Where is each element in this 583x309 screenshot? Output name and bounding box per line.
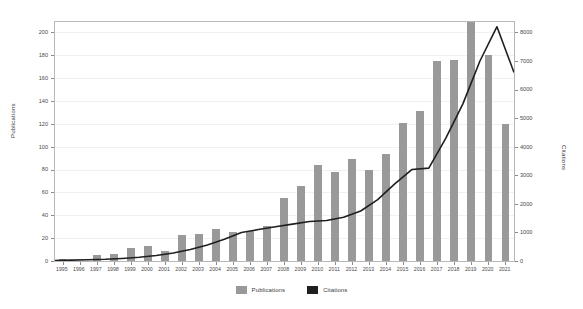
y-axis-left-tick-label: 140 — [22, 98, 48, 104]
y-axis-left-tick-label: 120 — [22, 121, 48, 127]
x-axis-tick-label: 1998 — [107, 266, 119, 272]
x-axis-tick-label: 2011 — [329, 266, 340, 272]
x-axis-tick — [386, 262, 387, 265]
x-axis-tick-label: 2008 — [278, 266, 290, 272]
y-axis-right-tick — [515, 175, 518, 176]
x-axis-tick-label: 2003 — [192, 266, 204, 272]
x-axis-tick-label: 1995 — [56, 266, 68, 272]
y-axis-left-tick-label: 40 — [22, 212, 48, 218]
citations-line — [54, 21, 514, 261]
y-axis-right-tick-label: 5000 — [520, 115, 550, 121]
y-axis-left-tick — [51, 78, 54, 79]
y-axis-left-tick-label: 200 — [22, 29, 48, 35]
y-axis-left-tick — [51, 147, 54, 148]
x-axis-tick-label: 2015 — [397, 266, 409, 272]
y-axis-right-tick-label: 0 — [520, 258, 550, 264]
y-axis-right-tick — [515, 90, 518, 91]
y-axis-left-tick — [51, 101, 54, 102]
x-axis-tick-label: 2002 — [175, 266, 187, 272]
x-axis-tick — [454, 262, 455, 265]
x-axis-tick-label: 2020 — [482, 266, 494, 272]
legend-label: Publications — [252, 287, 286, 293]
x-axis-tick-label: 2004 — [209, 266, 221, 272]
x-axis-tick-label: 2005 — [226, 266, 238, 272]
x-axis-tick-label: 2012 — [346, 266, 358, 272]
y-axis-left-title: Publications — [10, 103, 16, 138]
x-axis-tick-label: 2010 — [312, 266, 324, 272]
legend-swatch-icon — [307, 286, 318, 294]
y-axis-right-tick-label: 3000 — [520, 172, 550, 178]
y-axis-right-tick — [515, 261, 518, 262]
x-axis-tick-label: 2013 — [363, 266, 375, 272]
x-axis-tick-label: 1997 — [90, 266, 102, 272]
x-axis-tick — [284, 262, 285, 265]
y-axis-left-tick — [51, 170, 54, 171]
x-axis-tick-label: 2019 — [465, 266, 477, 272]
y-axis-right-tick-label: 8000 — [520, 29, 550, 35]
x-axis-tick — [505, 262, 506, 265]
x-axis-tick — [80, 262, 81, 265]
chart-legend: PublicationsCitations — [0, 286, 583, 294]
y-axis-right-tick-label: 2000 — [520, 201, 550, 207]
y-axis-left-tick — [51, 32, 54, 33]
y-axis-right-tick — [515, 32, 518, 33]
x-axis-tick — [131, 262, 132, 265]
x-axis-tick — [352, 262, 353, 265]
y-axis-left-tick-label: 20 — [22, 235, 48, 241]
x-axis-tick — [63, 262, 64, 265]
x-axis-tick — [165, 262, 166, 265]
x-axis-tick — [403, 262, 404, 265]
x-axis-tick — [369, 262, 370, 265]
y-axis-right-tick — [515, 147, 518, 148]
x-axis-tick — [267, 262, 268, 265]
y-axis-left-spine — [54, 21, 55, 262]
x-axis-tick-label: 2016 — [414, 266, 426, 272]
x-axis-tick — [182, 262, 183, 265]
x-axis-tick — [250, 262, 251, 265]
y-axis-right-tick — [515, 204, 518, 205]
x-axis-tick-label: 2017 — [431, 266, 443, 272]
x-axis-tick-label: 1999 — [124, 266, 136, 272]
y-axis-right-tick-label: 4000 — [520, 144, 550, 150]
x-axis-tick-label: 2001 — [158, 266, 170, 272]
y-axis-left-tick — [51, 238, 54, 239]
x-axis-tick — [199, 262, 200, 265]
x-axis-tick-label: 2018 — [448, 266, 460, 272]
y-axis-left-tick — [51, 55, 54, 56]
y-axis-left-tick — [51, 192, 54, 193]
y-axis-left-tick — [51, 261, 54, 262]
y-axis-left-tick — [51, 124, 54, 125]
y-axis-right-tick-label: 7000 — [520, 58, 550, 64]
legend-item: Publications — [236, 286, 286, 294]
y-axis-left-tick-label: 0 — [22, 258, 48, 264]
x-axis-tick-label: 2014 — [380, 266, 392, 272]
y-axis-right-spine — [514, 21, 515, 262]
x-axis-tick-label: 2009 — [295, 266, 307, 272]
x-axis-tick-label: 2006 — [243, 266, 255, 272]
x-axis-tick — [97, 262, 98, 265]
plot-area — [54, 21, 514, 261]
y-axis-left-tick-label: 100 — [22, 144, 48, 150]
x-axis-tick — [437, 262, 438, 265]
y-axis-right-tick — [515, 232, 518, 233]
x-axis-tick — [216, 262, 217, 265]
y-axis-right-title: Citations — [561, 145, 567, 170]
plot-top-spine — [54, 21, 515, 22]
y-axis-right-tick-label: 6000 — [520, 86, 550, 92]
x-axis-tick — [148, 262, 149, 265]
x-axis-tick — [471, 262, 472, 265]
y-axis-left-tick-label: 180 — [22, 52, 48, 58]
x-axis-tick — [114, 262, 115, 265]
x-axis-tick — [233, 262, 234, 265]
y-axis-left-tick — [51, 215, 54, 216]
y-axis-right-tick — [515, 118, 518, 119]
x-axis-tick — [335, 262, 336, 265]
x-axis-tick — [420, 262, 421, 265]
x-axis-tick — [318, 262, 319, 265]
legend-label: Citations — [323, 287, 347, 293]
legend-swatch-icon — [236, 286, 247, 294]
y-axis-right-tick-label: 1000 — [520, 229, 550, 235]
publications-citations-chart: Publications Citations PublicationsCitat… — [0, 0, 583, 309]
y-axis-right-tick — [515, 61, 518, 62]
y-axis-left-tick-label: 160 — [22, 75, 48, 81]
